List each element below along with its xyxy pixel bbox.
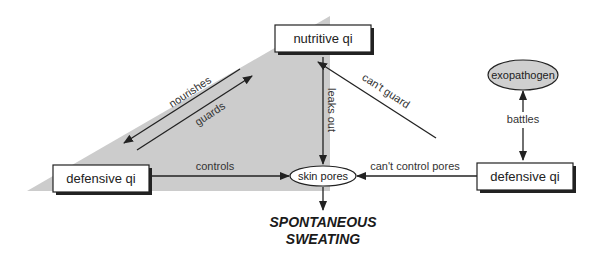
- exopathogen-node: exopathogen: [488, 60, 558, 90]
- defensive-qi-right-node: defensive qi: [477, 163, 576, 193]
- diagram-canvas: nutritive qi defensive qi defensive qi s…: [0, 0, 600, 258]
- result-line-2: SWEATING: [286, 231, 361, 247]
- leaks-out-label: leaks out: [326, 88, 338, 132]
- nutritive-qi-node: nutritive qi: [275, 25, 374, 55]
- nutritive-qi-label: nutritive qi: [293, 31, 352, 46]
- cant-guard-label: can't guard: [360, 71, 412, 111]
- controls-label: controls: [196, 160, 235, 172]
- exopathogen-label: exopathogen: [491, 69, 555, 81]
- skin-pores-label: skin pores: [298, 170, 349, 182]
- result-line-1: SPONTANEOUS: [269, 214, 377, 230]
- cant-control-pores-label: can't control pores: [370, 160, 460, 172]
- skin-pores-node: skin pores: [290, 166, 356, 186]
- defensive-qi-right-label: defensive qi: [490, 169, 559, 184]
- defensive-qi-left-label: defensive qi: [66, 171, 135, 186]
- defensive-qi-left-node: defensive qi: [53, 165, 152, 195]
- battles-label: battles: [507, 113, 540, 125]
